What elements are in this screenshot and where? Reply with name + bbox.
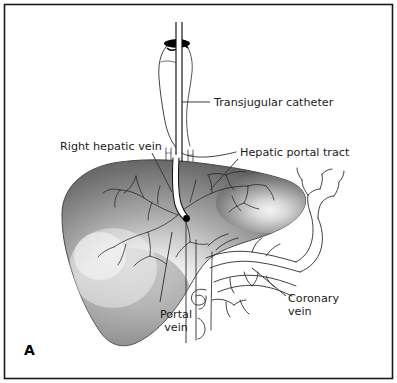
label-right-hepatic-vein: Right hepatic vein <box>60 140 162 153</box>
label-portal-vein-line1: Portal <box>160 308 192 321</box>
catheter-tip-marker <box>183 215 190 222</box>
label-hepatic-portal-tract: Hepatic portal tract <box>240 146 350 159</box>
leader-coronary-vein <box>252 268 286 296</box>
label-portal-vein-line2: vein <box>164 321 188 334</box>
label-coronary-vein-line1: Coronary <box>288 292 339 305</box>
figure-panel: Transjugular catheter Right hepatic vein… <box>0 0 397 383</box>
label-coronary-vein-line2: vein <box>288 305 312 318</box>
label-portal-vein: Portal vein <box>160 308 192 334</box>
label-coronary-vein: Coronary vein <box>288 292 339 318</box>
panel-letter: A <box>24 342 35 358</box>
liver-anatomy-illustration: Transjugular catheter Right hepatic vein… <box>0 0 397 383</box>
label-transjugular-catheter: Transjugular catheter <box>213 96 334 109</box>
